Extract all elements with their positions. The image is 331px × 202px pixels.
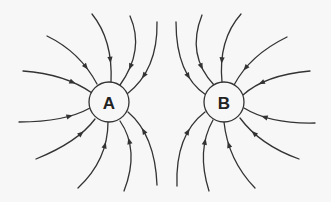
- arrowhead-icon: [257, 79, 265, 86]
- field-line-diagram: AB: [0, 0, 331, 202]
- arrowhead-icon: [126, 137, 133, 145]
- field-line-b: [221, 14, 241, 82]
- charge-label: B: [218, 94, 230, 113]
- arrowhead-icon: [225, 141, 232, 149]
- field-line-b: [240, 118, 299, 159]
- arrowhead-icon: [260, 114, 268, 121]
- field-line-a: [36, 119, 95, 159]
- arrowhead-icon: [140, 72, 148, 80]
- arrowhead-icon: [69, 79, 77, 86]
- charge-b: B: [204, 82, 244, 122]
- arrowhead-icon: [198, 63, 205, 71]
- field-line-a: [120, 121, 131, 191]
- field-line-a: [92, 14, 111, 82]
- field-line-b: [224, 122, 255, 188]
- field-line-b: [176, 22, 206, 95]
- arrowhead-icon: [127, 63, 134, 71]
- charges: AB: [89, 82, 244, 122]
- field-line-a: [120, 16, 136, 85]
- arrowhead-icon: [219, 57, 225, 64]
- arrowhead-icon: [66, 113, 74, 120]
- field-line-b: [234, 37, 287, 85]
- field-line-a: [19, 108, 90, 122]
- field-line-b: [243, 71, 310, 95]
- arrowhead-icon: [107, 57, 113, 64]
- diagram-canvas: AB: [0, 0, 331, 202]
- field-line-b: [244, 108, 315, 123]
- field-line-a: [23, 71, 92, 93]
- field-line-a: [127, 22, 157, 94]
- field-line-b: [203, 120, 213, 191]
- arrowhead-icon: [184, 72, 192, 80]
- field-lines: [19, 14, 315, 191]
- field-line-a: [47, 36, 97, 84]
- field-line-b: [177, 112, 205, 186]
- charge-label: A: [103, 94, 115, 113]
- charge-a: A: [89, 82, 129, 122]
- arrowhead-icon: [102, 141, 109, 149]
- field-line-b: [196, 15, 214, 85]
- arrowhead-icon: [140, 127, 148, 135]
- field-line-a: [128, 112, 157, 185]
- arrowhead-icon: [184, 127, 192, 135]
